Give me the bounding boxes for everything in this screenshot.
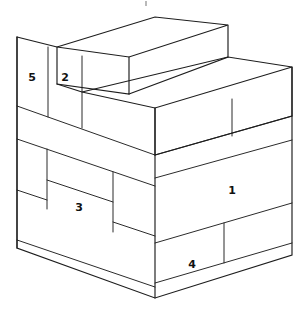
block-label-5: 5 (28, 71, 36, 84)
block-label-2: 2 (61, 71, 69, 84)
block-label-1: 1 (228, 184, 236, 197)
scan-artifact (145, 1, 147, 6)
speck-icon (145, 1, 147, 6)
isometric-block-diagram-svg: Isometric stacked block stair diagram (0, 0, 303, 312)
block-label-4: 4 (188, 258, 196, 271)
block-label-3: 3 (75, 201, 83, 214)
block-diagram-figure: Isometric stacked block stair diagram (0, 0, 303, 312)
